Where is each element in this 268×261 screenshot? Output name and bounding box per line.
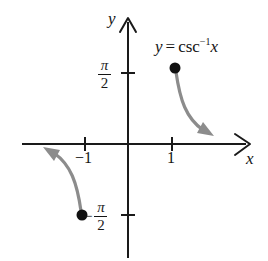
x-tick-label-pos1: 1 bbox=[167, 150, 175, 166]
equation-exponent: −1 bbox=[200, 36, 211, 47]
x-axis-label: x bbox=[246, 150, 254, 167]
neg-pi-over-2-numerator: π bbox=[95, 200, 107, 216]
equation-operator: = bbox=[163, 37, 179, 56]
y-axis-label: y bbox=[108, 10, 116, 27]
upper-branch-arrowhead bbox=[197, 122, 214, 136]
upper-endpoint-dot bbox=[170, 63, 181, 74]
graph-canvas bbox=[0, 0, 268, 261]
neg-pi-over-2-fraction: π 2 bbox=[94, 200, 107, 233]
equation-lhs: y bbox=[155, 37, 163, 56]
y-tick-label-neg-pi-over-2: − π 2 bbox=[84, 200, 107, 233]
equation-function: csc bbox=[178, 37, 200, 56]
equation-annotation: y=csc−1x bbox=[155, 38, 218, 55]
equation-argument: x bbox=[211, 37, 219, 56]
pi-over-2-fraction: π 2 bbox=[98, 58, 111, 91]
lower-branch-arrowhead bbox=[43, 147, 60, 161]
pi-over-2-denominator: 2 bbox=[99, 75, 111, 91]
upper-branch-curve bbox=[176, 72, 203, 130]
neg-pi-over-2-sign: − bbox=[84, 208, 92, 225]
neg-pi-over-2-denominator: 2 bbox=[95, 217, 107, 233]
x-tick-label-neg1: −1 bbox=[75, 150, 92, 166]
inverse-cosecant-graph-figure: y x −1 1 π 2 − π 2 y=csc−1x bbox=[0, 0, 268, 261]
pi-over-2-numerator: π bbox=[99, 58, 111, 74]
y-tick-label-pi-over-2: π 2 bbox=[96, 58, 111, 91]
